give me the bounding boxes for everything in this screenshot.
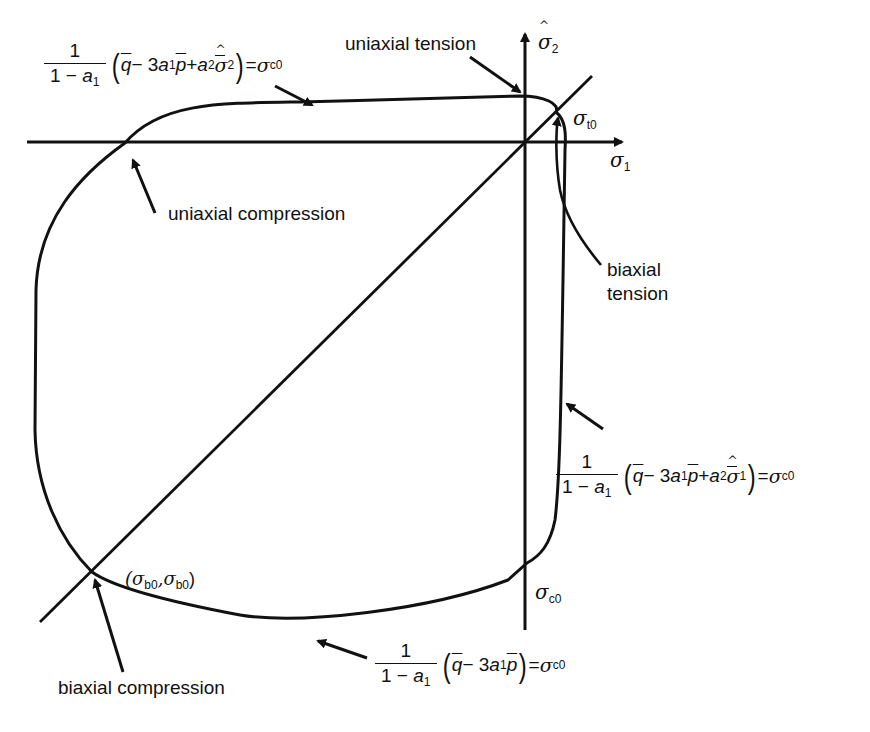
sigma2-axis-label: σ2: [538, 30, 558, 56]
biaxial-compression-arrow: [95, 580, 123, 672]
fraction: 1 1 − a1: [556, 451, 618, 500]
biaxial-tension-label: biaxial tension: [607, 258, 668, 306]
yield-surface-diagram: [0, 0, 870, 732]
sigma-c0-label: σc0: [535, 580, 561, 606]
sigma1-axis-label: σ1: [610, 148, 630, 174]
uniaxial-tension-label: uniaxial tension: [345, 33, 476, 55]
yield-surface-curve: [35, 96, 565, 618]
biaxial-compression-point-label: (σb0,σb0): [125, 568, 195, 592]
sigma-t0-label: σt0: [573, 106, 597, 132]
biaxial-compression-label: biaxial compression: [58, 677, 225, 699]
fraction: 1 1 − a1: [375, 640, 437, 689]
bottom-equation-arrow: [318, 641, 367, 658]
bottom-yield-equation: 1 1 − a1 ( q − 3a1p ) = σc0: [375, 640, 565, 689]
top-yield-equation: 1 1 − a1 ( q − 3a1p + a2σ2 ) = σc0: [44, 40, 282, 89]
fraction: 1 1 − a1: [44, 40, 106, 89]
uniaxial-compression-arrow: [133, 160, 155, 213]
right-yield-equation: 1 1 − a1 ( q − 3a1p + a2σ1 ) = σc0: [556, 451, 794, 500]
right-equation-arrow: [567, 404, 603, 429]
uniaxial-compression-label: uniaxial compression: [168, 203, 345, 225]
uniaxial-tension-arrow: [470, 57, 520, 92]
equibiaxial-line: [40, 76, 592, 622]
